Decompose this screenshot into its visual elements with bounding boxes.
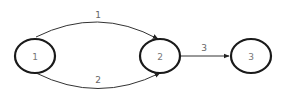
node-3: 3	[231, 39, 271, 73]
node-2-label: 2	[157, 52, 163, 62]
node-1-label: 1	[32, 52, 38, 62]
edge-1-to-2-upper	[36, 22, 158, 39]
node-1: 1	[15, 39, 55, 73]
edge-label-2: 2	[95, 75, 101, 85]
node-3-label: 3	[248, 52, 254, 62]
edge-label-3: 3	[201, 43, 207, 53]
graph-diagram: 1 2 3 1 2 3	[0, 0, 285, 90]
edge-label-1: 1	[95, 10, 101, 20]
node-2: 2	[140, 39, 180, 73]
